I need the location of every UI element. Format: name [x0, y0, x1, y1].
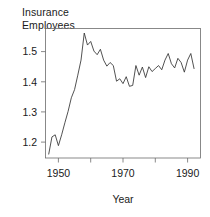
y-tick-label-1.5: 1.5: [22, 45, 37, 57]
x-axis-ticks: [58, 158, 187, 163]
chart-figure: Insurance Employees 1.2 1.3 1.4 1.5: [0, 0, 210, 217]
y-tick-label-1.2: 1.2: [22, 136, 37, 148]
x-axis-labels: 1950 1970 1990: [47, 167, 200, 179]
y-axis-labels: 1.2 1.3 1.4 1.5: [22, 45, 37, 148]
y-tick-label-1.4: 1.4: [22, 76, 37, 88]
data-series-line: [49, 33, 194, 154]
x-tick-label-1970: 1970: [111, 167, 135, 179]
y-axis-ticks: [41, 52, 46, 143]
x-axis-title: Year: [112, 193, 134, 205]
x-tick-label-1950: 1950: [47, 167, 71, 179]
x-tick-label-1990: 1990: [176, 167, 200, 179]
plot-area: 1.2 1.3 1.4 1.5 1950 1970 1990 Year: [0, 0, 210, 217]
plot-frame: [46, 29, 201, 159]
y-tick-label-1.3: 1.3: [22, 106, 37, 118]
